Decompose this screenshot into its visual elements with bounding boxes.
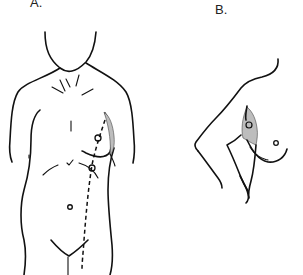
panel-b-lateral-drawing: [195, 59, 287, 203]
panel-a-torso-drawing: [10, 32, 135, 275]
figure-illustration: [0, 0, 303, 275]
